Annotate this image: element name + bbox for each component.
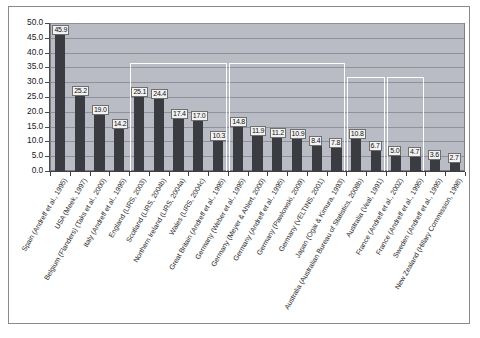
- y-axis-tick-label-wrap: 5.0: [9, 151, 43, 161]
- bar-value-label: 4.7: [408, 147, 421, 157]
- bar: [331, 148, 341, 171]
- x-axis-tick: [70, 172, 71, 176]
- gridline: [51, 82, 464, 83]
- x-axis-tick: [465, 172, 466, 176]
- y-axis-tick-label: 30.0: [13, 77, 43, 85]
- bar-value-label: 5.0: [388, 146, 401, 156]
- bar: [94, 115, 104, 171]
- bar-value-label: 7.8: [329, 138, 342, 148]
- y-axis-tick-label: 0.0: [13, 166, 43, 174]
- x-axis-tick: [208, 172, 209, 176]
- bar-value-label: 24.4: [151, 89, 168, 99]
- x-axis-tick: [109, 172, 110, 176]
- bar: [173, 119, 183, 171]
- y-axis-tick-label: 5.0: [13, 151, 43, 159]
- bar: [351, 139, 361, 171]
- x-axis-tick: [129, 172, 130, 176]
- y-axis-tick: [45, 127, 50, 128]
- bar-value-label: 10.9: [290, 129, 307, 139]
- y-axis-tick-label: 45.0: [13, 33, 43, 41]
- bar: [371, 151, 381, 171]
- y-axis-tick: [45, 141, 50, 142]
- bar: [213, 141, 223, 171]
- bar-value-label: 11.2: [270, 128, 286, 138]
- y-axis-tick-label: 40.0: [13, 48, 43, 56]
- y-axis-tick: [45, 156, 50, 157]
- y-axis-tick: [45, 38, 50, 39]
- y-axis-tick-label: 10.0: [13, 136, 43, 144]
- bar: [75, 96, 85, 171]
- y-axis-tick-label-wrap: 40.0: [9, 48, 43, 58]
- bar-value-label: 25.2: [72, 86, 89, 96]
- y-axis-tick-label: 25.0: [13, 92, 43, 100]
- y-axis-tick-label: 20.0: [13, 107, 43, 115]
- bar: [134, 97, 144, 171]
- bar-value-label: 14.8: [230, 117, 247, 127]
- x-axis-tick: [327, 172, 328, 176]
- y-axis-tick-label-wrap: 10.0: [9, 136, 43, 146]
- x-axis-tick: [169, 172, 170, 176]
- y-axis-tick-label: 50.0: [13, 18, 43, 26]
- bar: [312, 146, 322, 171]
- bar: [292, 139, 302, 171]
- figure-frame: 0.05.010.015.020.025.030.035.040.045.050…: [8, 6, 470, 324]
- bar: [154, 99, 164, 171]
- x-axis-tick: [445, 172, 446, 176]
- x-axis-tick: [386, 172, 387, 176]
- x-axis-tick: [307, 172, 308, 176]
- x-axis-tick: [346, 172, 347, 176]
- x-axis-tick: [287, 172, 288, 176]
- x-axis-tick: [228, 172, 229, 176]
- x-axis-tick: [425, 172, 426, 176]
- bar-value-label: 17.0: [191, 111, 208, 121]
- y-axis-tick-label: 15.0: [13, 122, 43, 130]
- x-axis-tick: [90, 172, 91, 176]
- y-axis-tick: [45, 82, 50, 83]
- bar: [193, 121, 203, 171]
- bar: [55, 35, 65, 171]
- bar-value-label: 19.0: [92, 105, 109, 115]
- bar: [272, 138, 282, 171]
- x-axis-tick: [149, 172, 150, 176]
- bar-value-label: 8.4: [309, 136, 322, 146]
- bar-value-label: 17.4: [171, 109, 188, 119]
- y-axis-tick: [45, 97, 50, 98]
- y-axis-tick: [45, 112, 50, 113]
- bar-value-label: 14.2: [112, 119, 129, 129]
- x-axis-tick: [248, 172, 249, 176]
- y-axis-tick-label-wrap: 35.0: [9, 62, 43, 72]
- bar-value-label: 25.1: [131, 87, 148, 97]
- bar: [410, 157, 420, 171]
- y-axis-tick: [45, 53, 50, 54]
- y-axis-tick-label-wrap: 45.0: [9, 33, 43, 43]
- y-axis-tick-label-wrap: 30.0: [9, 77, 43, 87]
- x-axis-tick: [188, 172, 189, 176]
- bar: [252, 136, 262, 171]
- gridline: [51, 23, 464, 24]
- bar: [114, 129, 124, 171]
- bar: [391, 156, 401, 171]
- bar-value-label: 10.8: [349, 129, 366, 139]
- bar-value-label: 6.7: [369, 141, 382, 151]
- x-axis-tick: [50, 172, 51, 176]
- y-axis-tick: [45, 67, 50, 68]
- bar-value-label: 2.7: [448, 153, 461, 163]
- bar-value-label: 3.6: [428, 150, 441, 160]
- y-axis-tick-label-wrap: 50.0: [9, 18, 43, 28]
- bar: [233, 127, 243, 171]
- gridline: [51, 97, 464, 98]
- y-axis-tick: [45, 23, 50, 24]
- y-axis-tick-label-wrap: 15.0: [9, 122, 43, 132]
- y-axis-tick-label-wrap: 20.0: [9, 107, 43, 117]
- x-axis-tick: [406, 172, 407, 176]
- bar: [430, 160, 440, 171]
- y-axis-tick-label: 35.0: [13, 62, 43, 70]
- bar-value-label: 10.3: [210, 131, 227, 141]
- bar-chart: 0.05.010.015.020.025.030.035.040.045.050…: [0, 0, 480, 338]
- x-axis-line: [49, 171, 465, 172]
- gridline: [51, 38, 464, 39]
- bar-value-label: 45.9: [52, 25, 69, 35]
- gridline: [51, 53, 464, 54]
- x-axis-tick: [366, 172, 367, 176]
- gridline: [51, 67, 464, 68]
